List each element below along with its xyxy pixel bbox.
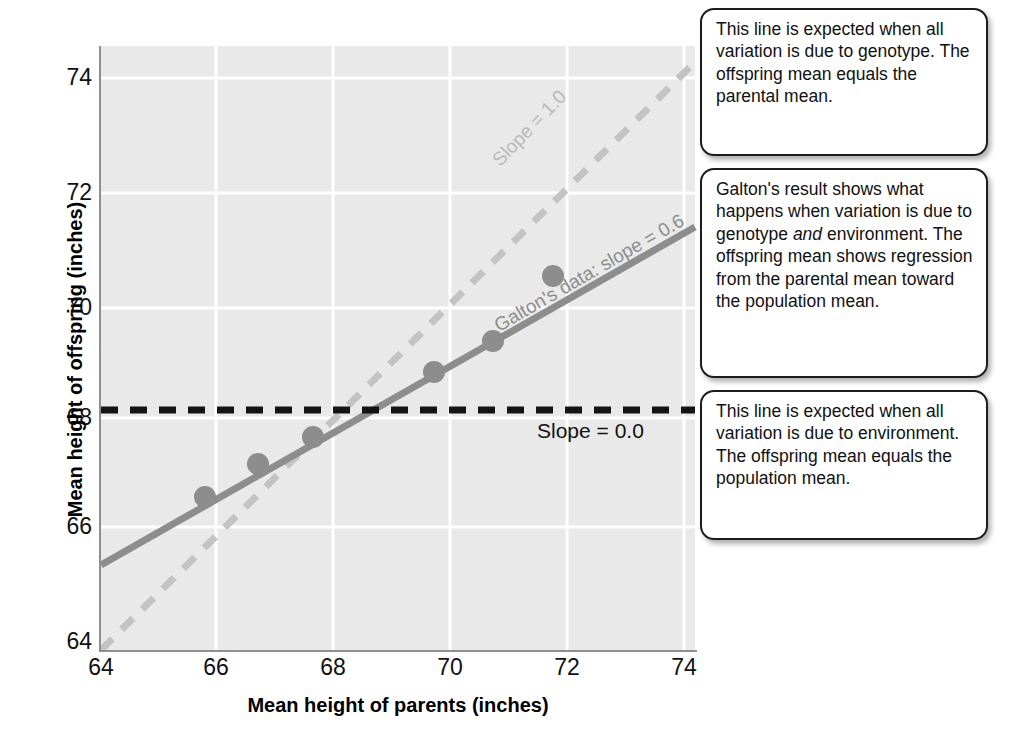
data-point bbox=[194, 486, 216, 508]
plot-area bbox=[101, 46, 695, 650]
x-axis-title: Mean height of parents (inches) bbox=[101, 694, 695, 717]
data-point bbox=[247, 453, 269, 475]
callout-slope-one: This line is expected when all variation… bbox=[700, 8, 988, 156]
x-tick-68: 68 bbox=[303, 654, 363, 681]
callout-slope-zero: This line is expected when all variation… bbox=[700, 390, 988, 540]
callout-galton-result: Galton's result shows what happens when … bbox=[700, 168, 988, 378]
x-tick-64: 64 bbox=[71, 654, 131, 681]
x-tick-74: 74 bbox=[654, 654, 714, 681]
callout-galton-text-italic: and bbox=[793, 224, 822, 244]
x-tick-70: 70 bbox=[420, 654, 480, 681]
data-point bbox=[302, 426, 324, 448]
slope-one-line bbox=[101, 62, 695, 650]
slope-zero-label: Slope = 0.0 bbox=[537, 419, 644, 443]
plot-canvas bbox=[101, 46, 695, 650]
y-tick-74: 74 bbox=[46, 64, 92, 91]
y-tick-64: 64 bbox=[46, 628, 92, 655]
x-tick-72: 72 bbox=[537, 654, 597, 681]
galton-regression-line bbox=[101, 227, 695, 565]
x-tick-66: 66 bbox=[186, 654, 246, 681]
data-points bbox=[194, 265, 564, 508]
data-point bbox=[423, 361, 445, 383]
galton-regression-figure: 74 72 70 68 66 64 64 66 68 70 72 74 Mean… bbox=[0, 0, 1021, 737]
x-axis-line bbox=[99, 650, 697, 652]
y-axis-title: Mean height of offspring (inches) bbox=[64, 160, 87, 560]
y-axis-line bbox=[99, 46, 101, 652]
